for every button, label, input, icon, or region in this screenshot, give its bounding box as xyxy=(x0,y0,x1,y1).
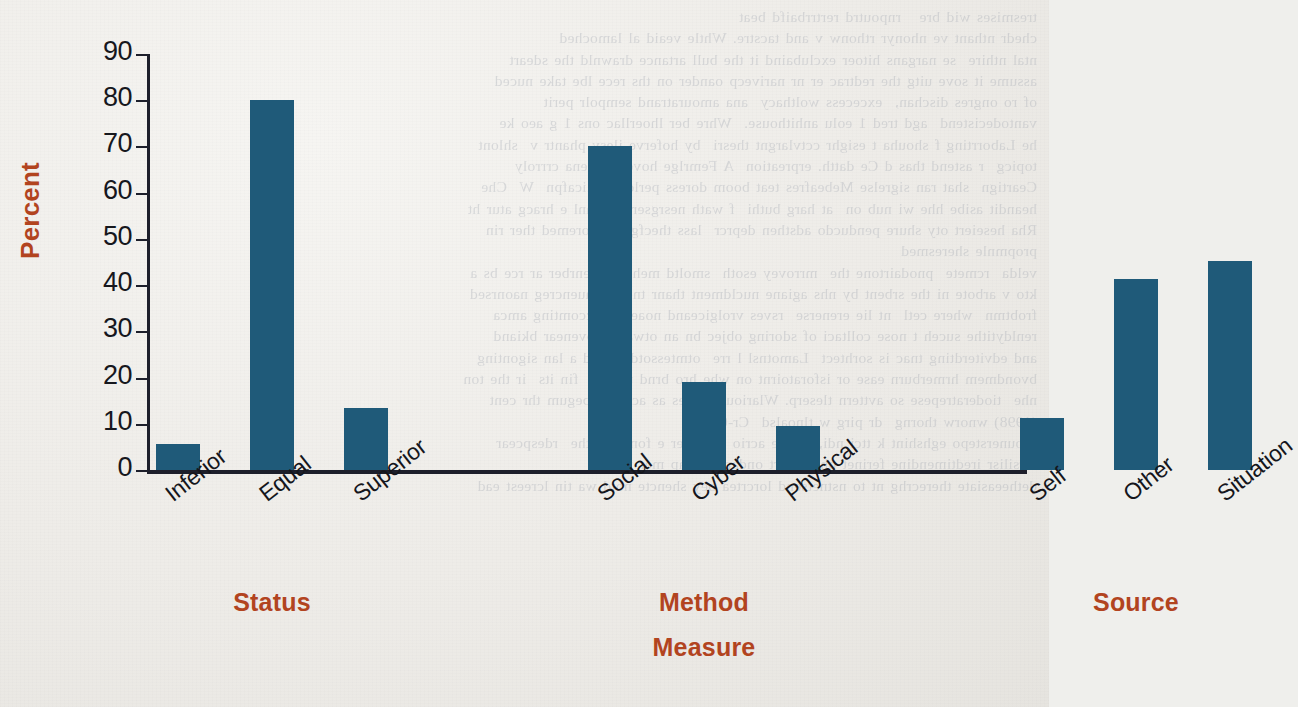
plot-area xyxy=(150,54,1027,470)
y-axis-title: Percent xyxy=(15,146,46,276)
bar xyxy=(1114,279,1158,470)
y-axis-tick-label: 80 xyxy=(88,82,132,113)
y-axis-tick-label: 50 xyxy=(88,221,132,252)
bar xyxy=(682,382,726,470)
x-axis-title: Measure xyxy=(584,633,824,662)
y-axis-tick-label: 90 xyxy=(88,36,132,67)
x-axis-group-label: Method xyxy=(584,588,824,617)
bar xyxy=(1020,418,1064,470)
bar xyxy=(250,100,294,470)
bar xyxy=(1208,261,1252,470)
y-axis-tick-label: 60 xyxy=(88,175,132,206)
x-axis-group-label: Source xyxy=(1016,588,1256,617)
y-axis-tick-label: 40 xyxy=(88,267,132,298)
y-axis-tick-label: 0 xyxy=(88,452,132,483)
y-axis-tick-label: 20 xyxy=(88,360,132,391)
y-axis-tick-label: 30 xyxy=(88,313,132,344)
bar xyxy=(588,146,632,470)
x-axis-group-label: Status xyxy=(152,588,392,617)
y-axis-tick-label: 10 xyxy=(88,406,132,437)
y-axis-tick-label: 70 xyxy=(88,128,132,159)
